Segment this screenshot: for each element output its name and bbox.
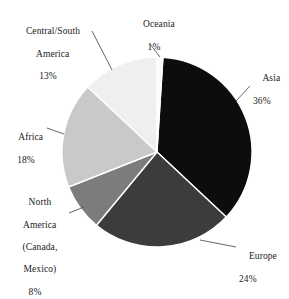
slice-label-text-line3: (Canada, bbox=[23, 242, 58, 252]
slice-label-text-oceania: Oceania bbox=[143, 19, 175, 29]
slice-value-oceania: 1% bbox=[125, 42, 183, 53]
leader-line-europe bbox=[200, 240, 236, 247]
slice-value-asia: 36% bbox=[253, 96, 289, 107]
slice-label-central-south-america: Central/South America 13% bbox=[6, 15, 90, 105]
slice-label-text-europe: Europe bbox=[249, 251, 277, 261]
slice-label-text-asia: Asia bbox=[262, 73, 280, 83]
leader-line-asia bbox=[236, 86, 250, 101]
slice-label-text-line2: America bbox=[36, 49, 69, 59]
leader-line-central-south-america bbox=[92, 31, 112, 70]
slice-value-africa: 18% bbox=[4, 155, 48, 166]
slice-label-text-africa: Africa bbox=[18, 132, 43, 142]
slice-label-europe: Europe 24% bbox=[239, 240, 289, 299]
slice-label-north-america: North America (Canada, Mexico) 8% bbox=[4, 186, 66, 299]
slice-value-central-south-america: 13% bbox=[6, 71, 90, 82]
slice-label-text-line1: Central/South bbox=[26, 26, 80, 36]
slice-label-text-line4: Mexico) bbox=[24, 264, 57, 274]
slice-label-asia: Asia 36% bbox=[253, 62, 289, 129]
slice-label-oceania: Oceania 1% bbox=[125, 8, 183, 75]
slice-label-text-line2: America bbox=[23, 220, 56, 230]
slice-value-europe: 24% bbox=[239, 274, 289, 285]
pie-slices bbox=[62, 57, 252, 247]
slice-value-north-america: 8% bbox=[4, 287, 66, 298]
leader-line-africa bbox=[47, 128, 64, 134]
slice-label-text-line1: North bbox=[29, 197, 52, 207]
slice-label-africa: Africa 18% bbox=[4, 121, 48, 188]
